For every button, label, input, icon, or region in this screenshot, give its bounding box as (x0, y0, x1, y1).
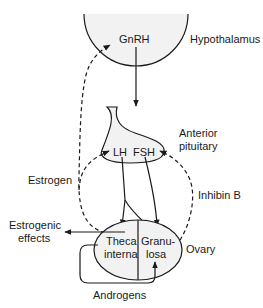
ovary-label: Ovary (186, 243, 216, 255)
estrogenic-label-2: effects (18, 232, 51, 244)
fsh-label: FSH (133, 146, 155, 158)
fsh-to-granulosa-arrow (145, 157, 157, 226)
granulosa-label-2: losa (146, 248, 167, 260)
hpo-axis-diagram: GnRH Hypothalamus LH FSH Anterior pituit… (0, 0, 263, 308)
anterior-label: Anterior (179, 127, 218, 139)
inhibin-label: Inhibin B (198, 189, 241, 201)
theca-label-2: interna (104, 248, 139, 260)
lh-label: LH (113, 146, 127, 158)
granulosa-label-1: Granu- (141, 235, 176, 247)
estrogen-label: Estrogen (28, 174, 72, 186)
hypothalamus-label: Hypothalamus (190, 33, 261, 45)
lh-to-theca-arrow (122, 157, 125, 226)
theca-label-1: Theca (106, 235, 137, 247)
gnrh-label: GnRH (119, 33, 150, 45)
estrogenic-label-1: Estrogenic (9, 219, 61, 231)
pituitary-label: pituitary (179, 140, 218, 152)
estrogen-feedback-arrow (79, 45, 110, 233)
androgens-label: Androgens (93, 289, 147, 301)
